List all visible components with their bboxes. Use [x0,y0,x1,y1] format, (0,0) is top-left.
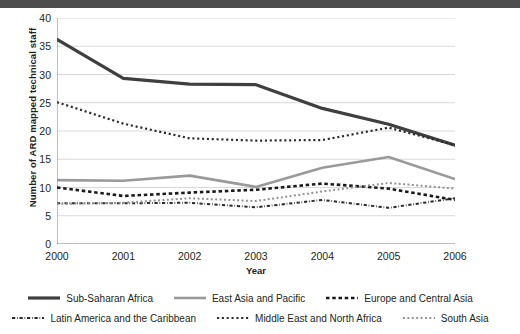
y-tick-label: 35 [39,40,51,52]
x-tick-label: 2003 [244,250,267,262]
x-tick-label: 2000 [45,250,68,262]
y-tick-label: 15 [39,153,51,165]
y-tick-label: 10 [39,182,51,194]
legend-item-3: Latin America and the Caribbean [11,313,216,324]
legend-swatch [27,293,61,303]
chart-legend: Sub-Saharan AfricaEast Asia and PacificE… [0,288,520,328]
legend-label: Sub-Saharan Africa [66,293,153,304]
legend-swatch [216,313,250,323]
legend-swatch [173,293,207,303]
legend-item-4: Middle East and North Africa [216,313,402,324]
x-tick-label: 2001 [112,250,135,262]
legend-label: Europe and Central Asia [364,293,472,304]
legend-label: Latin America and the Caribbean [50,313,196,324]
series-line-3 [57,198,455,208]
x-tick-label: 2005 [377,250,400,262]
y-tick-label: 25 [39,97,51,109]
chart-figure: Number of ARD mapped technical staff 051… [0,0,520,334]
y-tick-label: 20 [39,125,51,137]
legend-label: Middle East and North Africa [255,313,382,324]
legend-label: South Asia [441,313,489,324]
legend-item-1: East Asia and Pacific [173,293,325,304]
legend-swatch [325,293,359,303]
y-tick-label: 30 [39,69,51,81]
legend-label: East Asia and Pacific [212,293,305,304]
x-tick-label: 2006 [443,250,466,262]
plot-area: 0510152025303540 20002001200220032004200… [57,18,455,244]
legend-item-2: Europe and Central Asia [325,293,492,304]
legend-row-2: Latin America and the CaribbeanMiddle Ea… [0,308,520,328]
top-rule [0,0,520,8]
y-tick-label: 0 [45,238,51,250]
x-tick-label: 2004 [311,250,334,262]
series-line-4 [57,102,455,145]
legend-item-0: Sub-Saharan Africa [27,293,173,304]
x-axis-title: Year [57,265,455,276]
legend-row-1: Sub-Saharan AfricaEast Asia and PacificE… [0,288,520,308]
series-line-1 [57,157,455,187]
y-axis-title: Number of ARD mapped technical staff [27,0,38,238]
chart-svg [57,18,455,244]
legend-swatch [402,313,436,323]
x-tick-label: 2002 [178,250,201,262]
y-tick-label: 5 [45,210,51,222]
legend-swatch [11,313,45,323]
legend-item-5: South Asia [402,313,509,324]
y-tick-label: 40 [39,12,51,24]
